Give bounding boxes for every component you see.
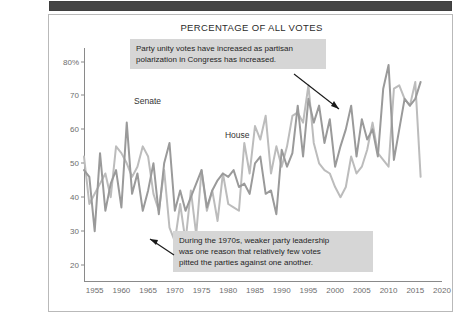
series-label-house: House bbox=[225, 130, 250, 140]
y-tick-mark bbox=[81, 61, 84, 62]
x-tick-label: 2015 bbox=[406, 286, 424, 295]
top-dark-band-fill bbox=[50, 2, 451, 10]
chart-screenshot: PERCENTAGE OF ALL VOTES 80%706050403020 … bbox=[0, 0, 465, 328]
y-tick-label: 80% bbox=[63, 57, 79, 66]
annotation-polarization: Party unity votes have increased as part… bbox=[130, 39, 326, 69]
x-tick-label: 1980 bbox=[219, 286, 237, 295]
y-tick-label: 20 bbox=[70, 261, 79, 270]
chart-title: PERCENTAGE OF ALL VOTES bbox=[49, 22, 454, 33]
y-tick-label: 70 bbox=[70, 91, 79, 100]
x-tick-label: 1985 bbox=[246, 286, 264, 295]
x-tick-label: 2020 bbox=[433, 286, 451, 295]
annotation-1970s: During the 1970s, weaker party leadershi… bbox=[173, 231, 373, 272]
x-tick-label: 2005 bbox=[353, 286, 371, 295]
y-tick-label: 50 bbox=[70, 159, 79, 168]
chart-card: PERCENTAGE OF ALL VOTES 80%706050403020 … bbox=[48, 14, 453, 312]
x-tick-label: 1990 bbox=[273, 286, 291, 295]
x-tick-label: 1995 bbox=[300, 286, 318, 295]
annotation-1970s-arrow bbox=[146, 234, 176, 258]
x-tick-label: 2010 bbox=[380, 286, 398, 295]
x-tick-label: 1975 bbox=[193, 286, 211, 295]
annotation-polarization-arrow bbox=[292, 72, 352, 118]
series-label-senate: Senate bbox=[134, 96, 161, 106]
y-tick-mark bbox=[81, 231, 84, 232]
y-tick-mark bbox=[81, 265, 84, 266]
x-tick-label: 1960 bbox=[112, 286, 130, 295]
y-tick-label: 40 bbox=[70, 193, 79, 202]
top-dark-band bbox=[48, 0, 453, 12]
y-tick-mark bbox=[81, 163, 84, 164]
x-tick-label: 1955 bbox=[86, 286, 104, 295]
y-tick-mark bbox=[81, 197, 84, 198]
x-tick-label: 1970 bbox=[166, 286, 184, 295]
x-tick-label: 1965 bbox=[139, 286, 157, 295]
y-tick-label: 30 bbox=[70, 227, 79, 236]
y-tick-label: 60 bbox=[70, 125, 79, 134]
x-tick-label: 2000 bbox=[326, 286, 344, 295]
y-tick-mark bbox=[81, 129, 84, 130]
y-tick-mark bbox=[81, 95, 84, 96]
